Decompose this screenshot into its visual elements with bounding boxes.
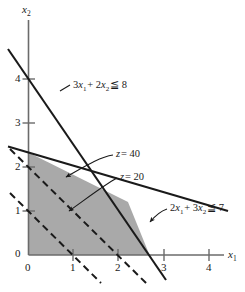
- objective-z40-label: z = 40: [116, 149, 140, 160]
- x-tick-label-0: 0: [25, 262, 31, 273]
- constraint-2-label: 2x1 + 3x2 ≦ 7: [170, 203, 224, 216]
- x-axis-label-sub: 1: [233, 254, 237, 263]
- constraint-1-var1-sub: 1: [83, 85, 87, 93]
- x-tick-label-1: 1: [70, 262, 76, 273]
- constraint-2-leader-line: [150, 209, 167, 222]
- objective-z40-var: z: [116, 148, 120, 159]
- x-axis-label: x1: [228, 249, 237, 263]
- x-tick-label-3: 3: [161, 262, 167, 273]
- objective-z40-value: = 40: [121, 148, 140, 159]
- linear-programming-graph: x2 x1 0 1 2 3 4 0 1 2 3 4 3x1 + 2x2 ≦ 8 …: [0, 0, 245, 292]
- constraint-1-label: 3x1 + 2x2 ≦ 8: [73, 80, 127, 93]
- objective-z20-label: z = 20: [120, 172, 144, 183]
- y-axis-label: x2: [22, 4, 31, 18]
- y-tick-label-2: 2: [15, 161, 21, 172]
- x-tick-label-2: 2: [115, 262, 121, 273]
- y-tick-label-3: 3: [15, 117, 21, 128]
- plot-canvas: [0, 0, 245, 292]
- y-axis-label-sub: 2: [27, 9, 31, 18]
- y-tick-label-0: 0: [15, 248, 21, 259]
- constraint-2-var2-sub: 2: [203, 208, 207, 216]
- x-tick-label-4: 4: [206, 262, 212, 273]
- constraint-1-coef2: + 2: [87, 79, 101, 90]
- constraint-1-leader-line: [60, 85, 70, 91]
- constraint-2-relation: ≦ 7: [207, 202, 224, 213]
- objective-z20-var: z: [120, 171, 124, 182]
- y-tick-label-1: 1: [15, 205, 21, 216]
- constraint-2-coef2: + 3: [184, 202, 198, 213]
- constraint-1-relation: ≦ 8: [110, 79, 127, 90]
- constraint-2-var1-sub: 1: [180, 208, 184, 216]
- constraint-1-var2-sub: 2: [106, 85, 110, 93]
- y-tick-label-4: 4: [15, 73, 21, 84]
- objective-z20-value: = 20: [125, 171, 144, 182]
